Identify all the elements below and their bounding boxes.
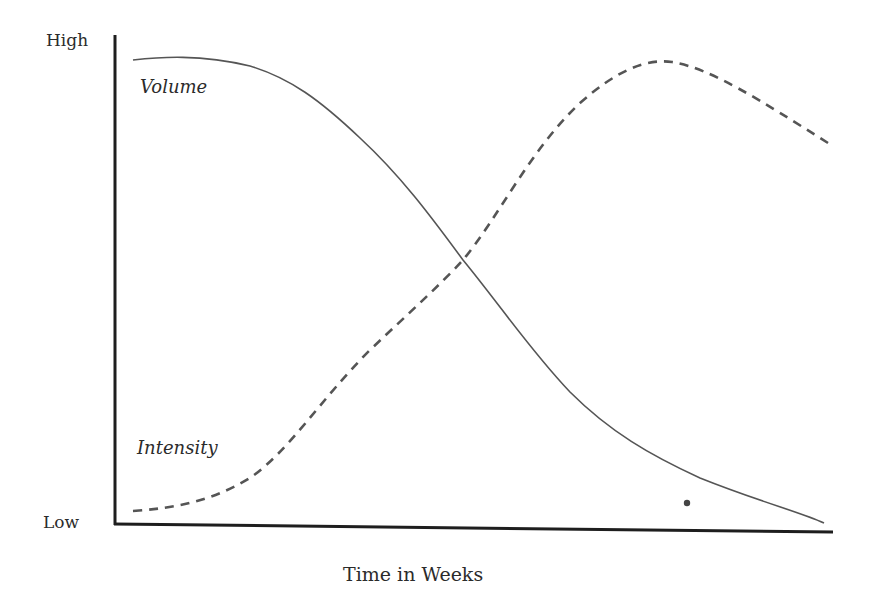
intensity-label: Intensity: [137, 437, 218, 458]
stray-mark: [684, 500, 690, 506]
intensity-line: [133, 61, 828, 511]
y-tick-low: Low: [43, 512, 79, 532]
plot-area: [0, 0, 882, 589]
volume-line: [133, 57, 824, 523]
volume-label: Volume: [140, 76, 207, 97]
y-tick-high: High: [46, 30, 88, 50]
x-axis-title: Time in Weeks: [343, 563, 483, 585]
x-axis: [114, 524, 833, 532]
volume-intensity-chart: High Low Volume Intensity Time in Weeks: [0, 0, 882, 589]
